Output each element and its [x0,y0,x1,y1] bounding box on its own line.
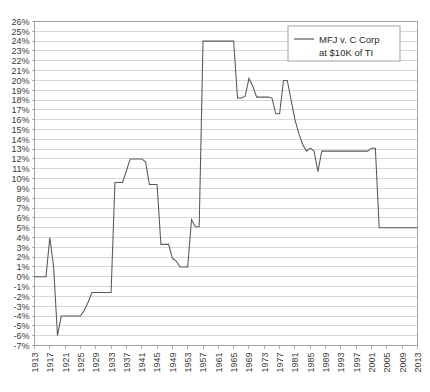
x-axis-tick-label: 1941 [137,353,147,373]
x-axis-tick-label: 1969 [244,353,254,373]
x-axis-tick-label: 1917 [45,353,55,373]
y-axis-tick-labels: 26%25%24%23%22%21%20%19%18%17%16%15%14%1… [11,17,29,351]
x-axis-tick-labels: 1913191719211925192919331937194119451949… [30,353,423,373]
x-axis-tick-label: 1973 [260,353,270,373]
y-axis-tick-label: 10% [11,174,29,184]
x-axis-ticks [35,346,418,349]
y-axis-tick-label: 19% [11,86,29,96]
x-axis-tick-label: 2009 [398,353,408,373]
y-axis-tick-label: -1% [13,282,29,292]
y-axis-tick-label: 16% [11,115,29,125]
y-axis-tick-label: 17% [11,105,29,115]
y-axis-tick-label: -4% [13,311,29,321]
y-axis-tick-label: 26% [11,17,29,27]
x-axis-tick-label: 1949 [168,353,178,373]
y-axis-tick-label: 8% [16,194,29,204]
y-axis-tick-label: 12% [11,154,29,164]
chart-legend: MFJ v. C Corp at $10K of TI [288,26,400,61]
x-axis-tick-label: 1925 [76,353,86,373]
x-axis-tick-label: 1993 [336,353,346,373]
plot-area-border [35,22,418,346]
x-axis-tick-label: 1977 [275,353,285,373]
y-axis-tick-label: 6% [16,213,29,223]
y-axis-tick-label: -6% [13,331,29,341]
y-axis-tick-label: -7% [13,341,29,351]
x-axis-tick-label: 1981 [290,353,300,373]
y-axis-tick-label: 2% [16,252,29,262]
y-axis-tick-label: -5% [13,321,29,331]
gridlines-group [32,22,418,346]
y-axis-tick-label: 13% [11,144,29,154]
x-axis-tick-label: 1961 [214,353,224,373]
line-chart: 26%25%24%23%22%21%20%19%18%17%16%15%14%1… [0,0,430,392]
x-axis-tick-label: 1913 [30,353,40,373]
y-axis-tick-label: 14% [11,135,29,145]
y-axis-tick-label: 5% [16,223,29,233]
x-axis-tick-label: 2001 [367,353,377,373]
y-axis-tick-label: 24% [11,36,29,46]
x-axis-tick-label: 1937 [122,353,132,373]
y-axis-tick-label: 0% [16,272,29,282]
y-axis-tick-label: 20% [11,76,29,86]
y-axis-tick-label: 1% [16,262,29,272]
x-axis-tick-label: 2005 [382,353,392,373]
y-axis-tick-label: 11% [12,164,29,174]
x-axis-tick-label: 1921 [61,353,71,373]
x-axis-tick-label: 1957 [198,353,208,373]
y-axis-tick-label: 7% [16,203,29,213]
y-axis-tick-label: 9% [16,184,29,194]
y-axis-tick-label: 25% [11,27,29,37]
x-axis-tick-label: 1953 [183,353,193,373]
y-axis-tick-label: 21% [11,66,29,76]
y-axis-tick-label: 3% [16,243,29,253]
x-axis-tick-label: 1989 [321,353,331,373]
x-axis-tick-label: 1933 [107,353,117,373]
chart-container: 26%25%24%23%22%21%20%19%18%17%16%15%14%1… [0,0,430,392]
y-axis-tick-label: -3% [13,302,29,312]
y-axis-tick-label: 18% [11,95,29,105]
x-axis-tick-label: 1985 [306,353,316,373]
y-axis-tick-label: 15% [11,125,29,135]
x-axis-tick-label: 1945 [152,353,162,373]
y-axis-tick-label: -2% [13,292,29,302]
legend-label-line2: at $10K of TI [319,47,373,58]
x-axis-tick-label: 2013 [413,353,423,373]
legend-label-line1: MFJ v. C Corp [319,34,380,45]
y-axis-tick-label: 4% [16,233,29,243]
y-axis-tick-label: 22% [11,56,29,66]
x-axis-tick-label: 1997 [352,353,362,373]
y-axis-tick-label: 23% [11,46,29,56]
x-axis-tick-label: 1929 [91,353,101,373]
x-axis-tick-label: 1965 [229,353,239,373]
